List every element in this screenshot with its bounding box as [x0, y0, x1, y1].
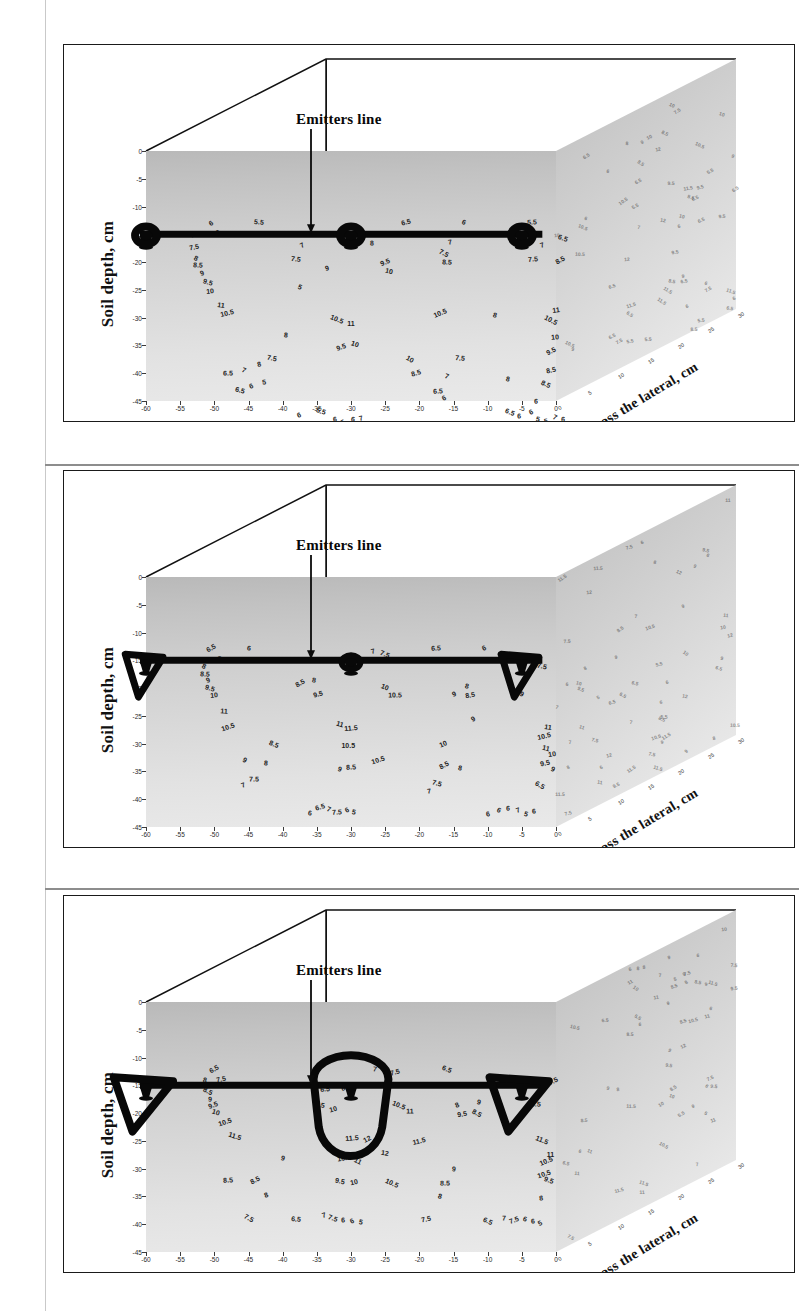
y-tick-mark	[142, 688, 146, 689]
z-tick-label: 25	[707, 326, 715, 334]
y-tick-mark	[142, 827, 146, 828]
contour-label: 6	[533, 397, 537, 404]
contour-label: 6.5	[504, 407, 516, 417]
contour-label: 6	[528, 408, 534, 416]
x-tick-label: -45	[244, 405, 253, 412]
x-tick-mark	[317, 401, 318, 405]
x-tick-mark	[419, 1252, 420, 1256]
contour-label: 6	[351, 415, 356, 422]
contour-label-minor: 7	[637, 223, 641, 229]
contour-label-minor: 9	[606, 1085, 610, 1091]
contour-label: 5.5	[315, 406, 326, 415]
x-tick-label: -10	[483, 1256, 492, 1263]
x-tick-label: -10	[483, 831, 492, 838]
z-tick-label: 15	[647, 1208, 655, 1216]
contour-label-minor: 11.5	[726, 287, 737, 296]
contour-label-minor: 6.5	[618, 691, 627, 700]
contour-label-minor: 5.5	[634, 1013, 643, 1022]
y-tick-mark	[142, 605, 146, 606]
x-tick-mark	[351, 401, 352, 405]
contour-label-minor: 6	[703, 280, 707, 287]
contour-label-minor: 7.5	[625, 543, 633, 551]
y-tick-label: -35	[126, 768, 142, 775]
contour-label-minor: 6.5	[714, 664, 723, 672]
contour-label-minor: 11	[723, 612, 729, 619]
x-tick-label: -5	[519, 831, 525, 838]
chart-panel-1: -60-55-50-45-40-35-30-25-20-15-10-500-5-…	[63, 44, 795, 422]
contour-label: 7	[551, 413, 558, 421]
contour-label-minor: 10.5	[617, 196, 628, 206]
contour-label-minor: 9	[614, 654, 617, 660]
emitters-lead-line	[326, 485, 327, 577]
x-tick-mark	[522, 1252, 523, 1256]
y-tick-label: 0	[126, 148, 142, 155]
contour-label-minor: 8.5	[694, 979, 702, 986]
x-tick-mark	[146, 1252, 147, 1256]
y-tick-mark	[142, 1169, 146, 1170]
x-tick-label: -20	[415, 831, 424, 838]
contour-label-minor: 6.5	[626, 309, 635, 318]
contour-label: 7.5	[249, 775, 259, 782]
contour-label-minor: 6	[697, 952, 700, 958]
x-tick-label: -50	[210, 831, 219, 838]
contour-label-minor: 8.5	[690, 326, 697, 332]
contour-label-minor: 8	[637, 965, 640, 971]
x-tick-mark	[385, 1252, 386, 1256]
contour-label-minor: 9	[682, 273, 685, 279]
y-tick-label: -40	[126, 1221, 142, 1228]
contour-label: 6	[530, 1217, 535, 1224]
contour-label: 6.5	[291, 1215, 301, 1223]
contour-label-minor: 9.5	[696, 184, 704, 192]
x-tick-mark	[454, 401, 455, 405]
contour-label-minor: 12	[680, 1042, 688, 1050]
x-tick-label: -55	[175, 1256, 184, 1263]
contour-label: 6	[341, 1216, 345, 1223]
contour-label-minor: 6.5	[601, 1017, 609, 1024]
contour-label: 7.5	[188, 242, 199, 251]
y-tick-label: -5	[126, 601, 142, 608]
y-tick-mark	[142, 401, 146, 402]
contour-label: 6.5	[431, 644, 441, 651]
x-tick-label: -15	[449, 1256, 458, 1263]
z-tick-label: 30	[737, 737, 745, 745]
z-tick-label: 25	[707, 1177, 715, 1185]
contour-label-minor: 6	[639, 1021, 642, 1027]
x-tick-label: -40	[278, 405, 287, 412]
contour-label-minor: 11	[586, 1147, 593, 1155]
y-tick-mark	[142, 799, 146, 800]
contour-label-minor: 6.5	[631, 679, 639, 687]
x-tick-mark	[351, 1252, 352, 1256]
contour-label: 11	[406, 1107, 414, 1114]
contour-label: 8	[369, 240, 373, 247]
contour-label-minor: 8	[565, 763, 570, 770]
contour-label-minor: 11	[639, 1189, 644, 1195]
contour-label-minor: 8	[625, 140, 628, 146]
emitters-line-label: Emitters line	[296, 537, 382, 554]
y-tick-mark	[142, 373, 146, 374]
contour-label-minor: 6.5	[697, 215, 706, 223]
contour-label-minor: 7.5	[566, 1232, 575, 1241]
contour-label-minor: 11.5	[593, 565, 603, 571]
contour-label-minor: 11	[709, 1116, 716, 1124]
emitters-lead-line	[326, 59, 327, 151]
y-tick-label: -25	[126, 712, 142, 719]
x-tick-mark	[454, 1252, 455, 1256]
x-tick-label: -15	[449, 405, 458, 412]
x-tick-label: -15	[449, 831, 458, 838]
contour-label: 10	[385, 267, 394, 276]
contour-label-minor: 10	[721, 926, 727, 932]
contour-label: 5	[544, 417, 549, 422]
contour-label-minor: 10	[657, 1100, 665, 1108]
y-tick-label: -35	[126, 342, 142, 349]
contour-label-minor: 11	[597, 778, 603, 785]
contour-label-minor: 6	[566, 681, 569, 687]
contour-label: 7.5	[267, 353, 278, 362]
y-tick-label: -45	[126, 824, 142, 831]
contour-label: 9.5	[530, 1100, 540, 1108]
x-tick-label: -10	[483, 405, 492, 412]
x-tick-label: -55	[175, 831, 184, 838]
contour-label-minor: 9.5	[577, 684, 586, 692]
contour-label-minor: 11.5	[614, 1186, 625, 1194]
y-tick-mark	[142, 577, 146, 578]
y-tick-mark	[142, 1196, 146, 1197]
